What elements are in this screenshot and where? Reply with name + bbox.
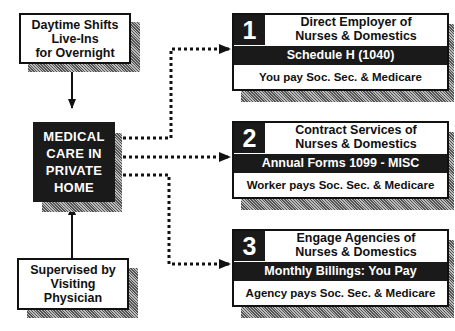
option-card-2: 2 Contract Services of Nurses & Domestic… <box>232 121 449 199</box>
bottom-box-line: Physician <box>44 291 102 305</box>
center-box: MEDICAL CARE IN PRIVATE HOME <box>33 122 115 202</box>
center-box-line: CARE IN <box>46 145 102 162</box>
bottom-box-line: Visiting <box>51 277 96 291</box>
center-box-line: HOME <box>54 179 94 196</box>
option-card-1: 1 Direct Employer of Nurses & Domestics … <box>232 13 449 91</box>
option-title-line: Contract Services of <box>265 124 447 138</box>
option-footer: You pay Soc. Sec. & Medicare <box>234 65 447 89</box>
arrowhead-1 <box>219 44 231 54</box>
center-box-line: MEDICAL <box>43 128 104 145</box>
top-box: Daytime Shifts Live-Ins for Overnight <box>19 13 131 64</box>
arrowhead-3 <box>219 259 231 269</box>
option-title: Engage Agencies of Nurses & Domestics <box>265 232 447 261</box>
option-number: 3 <box>234 231 265 261</box>
option-footer: Worker pays Soc. Sec. & Medicare <box>234 173 447 197</box>
top-box-line: for Overnight <box>35 46 114 60</box>
option-title-line: Nurses & Domestics <box>265 246 447 260</box>
option-form-band: Annual Forms 1099 - MISC <box>234 154 447 173</box>
bottom-box-line: Supervised by <box>30 263 115 277</box>
option-form-band: Monthly Billings: You Pay <box>234 262 447 281</box>
option-title-line: Nurses & Domestics <box>265 138 447 152</box>
option-title: Direct Employer of Nurses & Domestics <box>265 16 447 45</box>
option-number: 1 <box>234 15 265 45</box>
option-title: Contract Services of Nurses & Domestics <box>265 124 447 153</box>
bottom-box: Supervised by Visiting Physician <box>17 258 129 310</box>
top-box-line: Daytime Shifts <box>32 18 119 32</box>
option-title-line: Nurses & Domestics <box>265 30 447 44</box>
arrowhead-2 <box>219 152 231 162</box>
dotted-connector-3 <box>117 175 229 264</box>
option-card-3: 3 Engage Agencies of Nurses & Domestics … <box>232 229 449 307</box>
top-box-line: Live-Ins <box>51 32 98 46</box>
option-number: 2 <box>234 123 265 153</box>
option-title-line: Direct Employer of <box>265 16 447 30</box>
option-title-line: Engage Agencies of <box>265 232 447 246</box>
center-box-line: PRIVATE <box>46 162 103 179</box>
option-footer: Agency pays Soc. Sec. & Medicare <box>234 281 447 305</box>
option-form-band: Schedule H (1040) <box>234 46 447 65</box>
